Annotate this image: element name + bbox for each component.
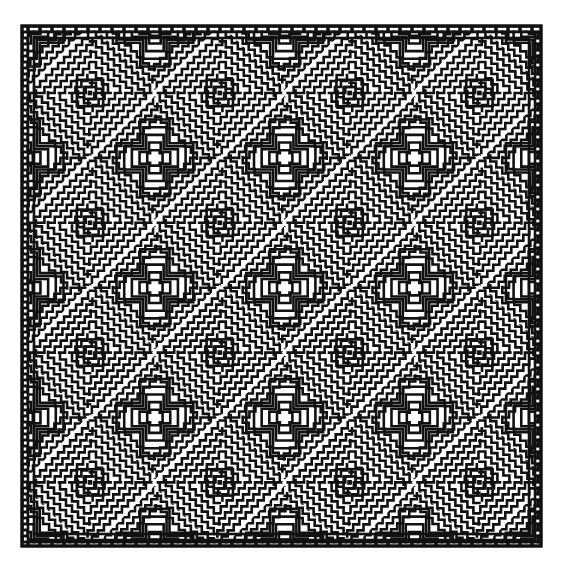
labyrinth-pattern-canvas — [0, 0, 571, 566]
